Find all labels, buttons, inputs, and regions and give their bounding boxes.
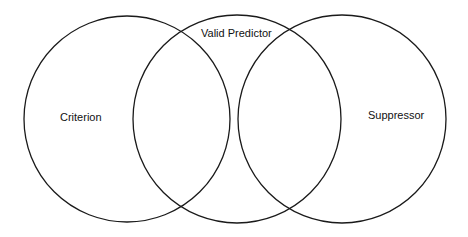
suppressor-label: Suppressor	[368, 109, 425, 121]
valid-predictor-label: Valid Predictor	[201, 27, 272, 39]
venn-diagram: Criterion Valid Predictor Suppressor	[0, 0, 468, 237]
criterion-circle	[24, 16, 230, 222]
criterion-label: Criterion	[60, 111, 102, 123]
valid-predictor-circle	[133, 15, 341, 223]
